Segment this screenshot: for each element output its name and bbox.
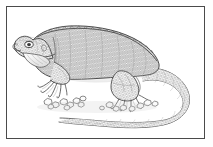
illustration-frame: Lizard Black and white stippled line dra… — [6, 6, 205, 139]
lizard-illustration — [7, 7, 204, 138]
figure-root: Lizard Black and white stippled line dra… — [0, 0, 213, 147]
ground-shadow — [37, 101, 157, 113]
eye — [25, 41, 33, 47]
